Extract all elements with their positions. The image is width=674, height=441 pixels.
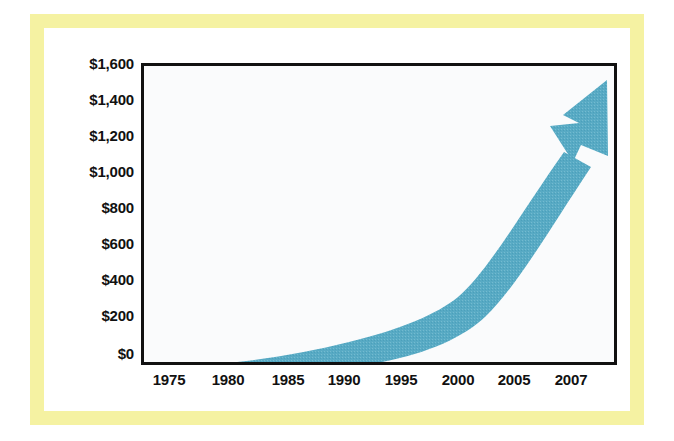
x-tick-label-2005: 2005 <box>498 371 531 388</box>
y-tick-label-200: $200 <box>101 307 134 324</box>
x-axis-tick-labels: 1975 1980 1985 1990 1995 2000 2005 2007 <box>141 371 617 395</box>
x-tick-label-2007: 2007 <box>555 371 588 388</box>
y-tick-label-1600: $1,600 <box>89 55 134 72</box>
x-tick-label-1990: 1990 <box>328 371 361 388</box>
y-tick-label-1000: $1,000 <box>89 163 134 180</box>
growth-band <box>176 152 591 365</box>
y-tick-label-0: $0 <box>118 345 134 362</box>
growth-arrowhead <box>550 80 608 162</box>
plot-area <box>141 63 617 365</box>
x-tick-label-1975: 1975 <box>153 371 186 388</box>
y-tick-label-800: $800 <box>101 199 134 216</box>
y-tick-label-1200: $1,200 <box>89 127 134 144</box>
figure-root: $1,600 $1,400 $1,200 $1,000 $800 $600 $4… <box>0 0 674 441</box>
x-tick-label-2000: 2000 <box>442 371 475 388</box>
x-tick-label-1985: 1985 <box>272 371 305 388</box>
growth-arrow-series <box>176 80 608 365</box>
y-tick-label-1400: $1,400 <box>89 91 134 108</box>
y-tick-label-400: $400 <box>101 271 134 288</box>
chart-plot-svg <box>144 66 617 365</box>
x-tick-label-1995: 1995 <box>385 371 418 388</box>
x-tick-label-1980: 1980 <box>212 371 245 388</box>
y-axis-tick-labels: $1,600 $1,400 $1,200 $1,000 $800 $600 $4… <box>44 63 134 365</box>
y-tick-label-600: $600 <box>101 235 134 252</box>
